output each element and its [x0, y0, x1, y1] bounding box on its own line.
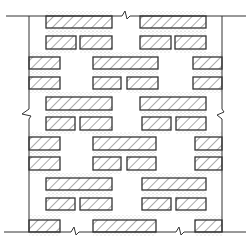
brick-courses — [29, 16, 222, 232]
brick — [195, 220, 222, 232]
mortar-joint — [142, 173, 206, 177]
mortar-joint — [93, 152, 121, 156]
mortar-joint — [93, 72, 121, 76]
brick — [195, 157, 222, 170]
brick — [176, 117, 206, 130]
mortar-joint — [140, 11, 206, 15]
brick — [93, 157, 121, 170]
brick — [46, 97, 112, 110]
mortar-joint — [195, 132, 222, 136]
brick — [46, 198, 75, 210]
brick — [80, 36, 112, 49]
mortar-joint — [93, 215, 156, 219]
mortar-joint — [29, 132, 60, 136]
mortar-joint — [46, 112, 75, 116]
brick — [142, 117, 171, 130]
brick — [127, 77, 158, 89]
brick — [46, 178, 112, 190]
brick — [29, 57, 60, 69]
brick — [176, 198, 206, 210]
brick — [127, 157, 156, 170]
brick — [142, 198, 171, 210]
right-wall-edge — [217, 16, 224, 232]
mortar-joint — [80, 211, 112, 214]
brick — [93, 77, 121, 89]
top-break-line — [6, 11, 246, 19]
mortar-joint — [29, 72, 60, 76]
brick — [93, 57, 158, 69]
mortar-joint — [140, 92, 206, 96]
mortar-joint — [195, 233, 222, 236]
left-wall-edge — [22, 16, 31, 232]
wall-outline — [4, 11, 246, 235]
mortar-joint — [46, 92, 112, 96]
mortar-joint — [127, 72, 158, 76]
mortar-joint — [142, 193, 171, 197]
mortar-joint — [176, 211, 206, 214]
mortar-joint — [29, 233, 60, 236]
mortar-joint — [80, 193, 112, 197]
brick — [29, 157, 60, 170]
brick — [195, 137, 222, 150]
mortar-joint — [46, 11, 112, 15]
mortar-joint — [140, 31, 171, 35]
mortar-joint — [46, 173, 112, 177]
brick — [175, 36, 206, 49]
mortar-joint — [80, 31, 112, 35]
brick-wall-diagram: Perforated brick wall elevation (hollow/… — [0, 0, 252, 248]
brick — [193, 77, 222, 89]
brick — [29, 77, 60, 89]
mortar-joint — [46, 211, 75, 214]
mortar-joint — [46, 193, 75, 197]
brick — [142, 178, 206, 190]
brick — [140, 16, 206, 28]
wall-elevation-drawing — [0, 0, 252, 248]
mortar-joint — [127, 152, 156, 156]
brick — [80, 117, 112, 130]
mortar-joint — [176, 112, 206, 116]
mortar-joint — [193, 72, 222, 76]
brick — [140, 36, 171, 49]
mortar-joint — [93, 52, 158, 56]
brick — [80, 198, 112, 210]
brick — [93, 220, 156, 232]
mortar-joint — [29, 152, 60, 156]
mortar-joint — [142, 211, 171, 214]
mortar-joint — [193, 52, 222, 56]
mortar-joint — [142, 112, 171, 116]
brick — [46, 16, 112, 28]
mortar-joint — [80, 112, 112, 116]
mortar-joint — [176, 193, 206, 197]
brick — [140, 97, 206, 110]
mortar-joint — [93, 132, 156, 136]
mortar-joint — [46, 31, 76, 35]
mortar-joint — [195, 152, 222, 156]
mortar-joint — [195, 215, 222, 219]
brick — [46, 117, 75, 130]
mortar-joint — [175, 31, 206, 35]
brick — [29, 220, 60, 232]
mortar-joint — [29, 52, 60, 56]
brick — [46, 36, 76, 49]
brick — [93, 137, 156, 150]
brick — [193, 57, 222, 69]
brick — [29, 137, 60, 150]
mortar-joint — [93, 233, 156, 236]
mortar-joint — [29, 215, 60, 219]
